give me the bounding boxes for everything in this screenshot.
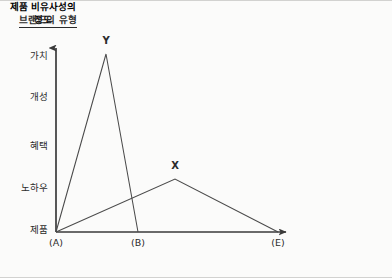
y-axis-tick-label-3: 개성 [6,92,48,103]
y-axis-tick-label-0: 제품 [6,225,48,236]
page-title: 브랜드의 유형 [19,15,77,28]
series-line-Y [56,54,138,232]
series-label-Y: Y [98,35,114,47]
chart-figure: 브랜드의 유형 가치 개성 혜택 노하우 제품 (A) (B) (E) Y X … [0,0,392,278]
x-axis-tick-label-b: (B) [121,238,155,249]
y-axis-tick-label-4: 가치 [6,51,48,62]
x-axis-tick-label-a: (A) [39,238,73,249]
y-axis-tick-label-2: 혜택 [6,141,48,152]
x-axis-tick-label-e: (E) [261,238,295,249]
series-line-X [56,179,278,232]
series-label-X: X [167,160,183,172]
y-axis-tick-label-1: 노하우 [6,183,48,194]
